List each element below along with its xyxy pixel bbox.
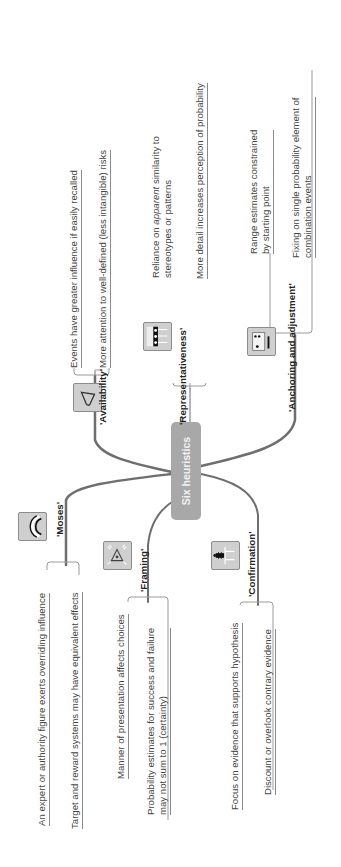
anchoring-leaf-2[interactable]: Fixing on single probability element of … — [290, 97, 316, 258]
framing-leaf-1[interactable]: Manner of presentation affects choices — [115, 614, 129, 779]
leaf-emphasis: apparent — [150, 187, 161, 225]
anchoring-leaf-1[interactable]: Range estimates constrained by starting … — [248, 130, 274, 254]
leaf-text-line2: stereotypes or patterns — [162, 136, 174, 278]
branch-moses[interactable]: 'Moses' — [54, 502, 66, 537]
leaf-text-line1: Range estimates constrained — [248, 130, 260, 254]
central-topic[interactable]: Six heuristics — [171, 422, 201, 520]
confirmation-leaf-2[interactable]: Discount or overlook contrary evidence — [262, 629, 276, 795]
leaf-text: Reliance on — [150, 225, 161, 278]
confirmation-leaf-1[interactable]: Focus on evidence that supports hypothes… — [229, 623, 243, 810]
confirmation-icon — [211, 541, 240, 570]
branch-confirmation[interactable]: 'Confirmation' — [246, 531, 258, 597]
leaf-text-line2: by starting point — [260, 130, 274, 254]
leaf-text-line2: combination events — [302, 97, 316, 258]
availability-leaf-1[interactable]: Events have greater influence if easily … — [68, 170, 82, 368]
branch-anchoring[interactable]: 'Anchoring and adjustment' — [286, 283, 298, 412]
framing-icon — [103, 541, 132, 570]
leaf-text-line1: Probability estimates for success and fa… — [145, 628, 157, 815]
leaf-text-line1: Fixing on single probability element of — [290, 97, 302, 258]
branch-representativeness[interactable]: 'Representativeness' — [177, 328, 189, 425]
availability-leaf-2[interactable]: More attention to well-defined (less int… — [97, 150, 111, 368]
central-topic-label: Six heuristics — [180, 437, 192, 505]
representativeness-leaf-1[interactable]: Reliance on apparent similarity to stere… — [150, 136, 174, 278]
branch-availability[interactable]: 'Availability' — [97, 369, 109, 425]
representativeness-leaf-2[interactable]: More detail increases perception of prob… — [194, 83, 208, 279]
moses-leaf-1[interactable]: An expert or authority figure exerts ove… — [36, 593, 50, 826]
branch-framing[interactable]: 'Framing' — [138, 549, 150, 592]
leaf-text-line2: may not sum to 1 (certainty) — [157, 628, 171, 815]
moses-leaf-2[interactable]: Target and reward systems may have equiv… — [69, 592, 83, 829]
representativeness-icon — [143, 322, 172, 351]
framing-leaf-2[interactable]: Probability estimates for success and fa… — [145, 628, 171, 815]
anchoring-icon — [247, 327, 276, 356]
moses-icon — [18, 512, 47, 541]
leaf-text: similarity to — [150, 136, 161, 187]
